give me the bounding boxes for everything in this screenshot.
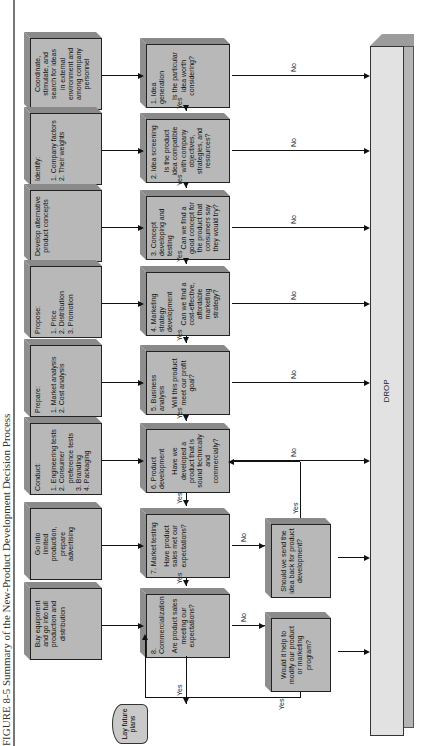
connector-line [232, 382, 368, 383]
step-text: 3. Concept developing and testingCan we … [146, 196, 230, 260]
step-box-2: 2. Idea screeningIs the product idea com… [140, 113, 230, 183]
instruction-line: Prepare: [34, 349, 42, 413]
step-box-8: 8. CommercializationAre product sales me… [140, 588, 230, 658]
yes-label: Yes [278, 699, 285, 710]
step-heading: 5. Business analysis [150, 355, 166, 411]
step-heading: 2. Idea screening [150, 123, 158, 179]
instruction-box-limited: Go intolimitedproduction,prepareadvertis… [24, 502, 102, 580]
step-box-3: 3. Concept developing and testingCan we … [140, 190, 230, 260]
instruction-line: 2. Distribution [58, 270, 66, 334]
instruction-line: production and [50, 592, 58, 656]
arrowhead-icon [142, 634, 148, 640]
instruction-line: and go into full [42, 592, 50, 656]
connector-line [102, 625, 142, 626]
connector-line [186, 656, 187, 704]
step-heading: 7. Market testing [150, 518, 158, 574]
instruction-line: Conduct: [34, 427, 42, 491]
connector-line [232, 303, 368, 304]
instruction-line [42, 427, 50, 491]
connector-line [102, 227, 142, 228]
instruction-text: Coordinate,stimulate, andsearch for idea… [30, 38, 102, 110]
instruction-line: 1. Engineering tests [50, 427, 58, 491]
yes-label: Yes [176, 573, 183, 584]
instruction-line: search for ideas [50, 42, 58, 106]
step-question: Can we find a good concept for the produ… [180, 200, 221, 256]
instruction-box-develop: Develop alternativeproduct concepts [24, 184, 102, 262]
step-question: Can we find a cost-effective, affordable… [180, 276, 221, 332]
instruction-line: 2. Consumer [58, 427, 66, 491]
connector-line [232, 75, 368, 76]
instruction-line: environment and [67, 42, 75, 106]
instruction-line: Go into [34, 512, 42, 576]
arrowhead-icon [138, 148, 144, 154]
arrowhead-icon [183, 580, 189, 586]
step-heading: 4. Marketing strategy development [150, 276, 175, 332]
terminal-text: Lay future plans [112, 704, 148, 744]
step-question: Have product sales met our expectations? [163, 518, 188, 574]
step-question: Is the particular idea worth considering… [171, 48, 196, 104]
step-box-7: 7. Market testingHave product sales met … [140, 508, 230, 578]
arrowhead-icon [228, 459, 234, 465]
instruction-line: prepare [59, 512, 67, 576]
instruction-text: Conduct:1. Engineering tests2. Consumer … [30, 423, 102, 495]
no-label: No [290, 448, 297, 457]
step-question: Are product sales meeting our expectatio… [171, 598, 196, 654]
instruction-line: limited [42, 512, 50, 576]
connector-line [145, 697, 300, 698]
instruction-text: Prepare:1. Market analysis2. Cost analys… [30, 345, 102, 417]
step-question: Is the product idea compatible with comp… [163, 123, 212, 179]
step-text: 6. Product developmentHave we developed … [146, 429, 230, 493]
no-label: No [290, 215, 297, 224]
instruction-line: stimulate, and [42, 42, 50, 106]
step-text: 5. Business analysisWill this product me… [146, 351, 230, 415]
arrowhead-icon [138, 225, 144, 231]
instruction-line: Propose: [34, 270, 42, 334]
decision-send-back-text: Should we send the idea back for product… [271, 524, 331, 598]
no-label: No [240, 533, 247, 542]
step-box-1: 1. Idea generationIs the particular idea… [140, 38, 230, 108]
instruction-line: Develop alternative [34, 194, 42, 258]
connector-line [232, 150, 368, 151]
step-heading: 3. Concept developing and testing [150, 200, 175, 256]
step-question: Will this product meet our profit goal? [171, 355, 196, 411]
instruction-line [42, 349, 50, 413]
arrowhead-icon [183, 182, 189, 188]
instruction-line: production, [50, 512, 58, 576]
arrowhead-icon [183, 337, 189, 343]
arrowhead-icon [138, 623, 144, 629]
arrowhead-icon [183, 258, 189, 264]
connector-line [102, 545, 142, 546]
yes-label: Yes [176, 493, 183, 504]
instruction-line: in external [59, 42, 67, 106]
instruction-text: Develop alternativeproduct concepts [30, 190, 102, 262]
instruction-box-conduct: Conduct:1. Engineering tests2. Consumer … [24, 417, 102, 495]
instruction-text: Identify:1. Company factors2. Their weig… [30, 113, 102, 185]
step-text: 1. Idea generationIs the particular idea… [146, 44, 230, 108]
step-box-6: 6. Product developmentHave we developed … [140, 423, 230, 493]
instruction-text: Go intolimitedproduction,prepareadvertis… [30, 508, 102, 580]
connector-line [102, 460, 142, 461]
instruction-line: Buy equipment [34, 592, 42, 656]
no-label: No [290, 370, 297, 379]
instruction-line: 2. Cost analysis [58, 349, 66, 413]
connector-line [102, 303, 142, 304]
instruction-line: Identify: [34, 117, 42, 181]
instruction-line: advertising [67, 512, 75, 576]
arrowhead-icon [183, 500, 189, 506]
flowchart-canvas: FIGURE 8-5 Summary of the New-Product De… [0, 0, 424, 746]
instruction-line: preference tests [67, 427, 75, 491]
no-label: No [240, 613, 247, 622]
step-text: 4. Marketing strategy developmentCan we … [146, 272, 230, 336]
instruction-box-full: Buy equipmentand go into fullproduction … [24, 582, 102, 660]
arrowhead-icon [183, 698, 189, 704]
step-box-5: 5. Business analysisWill this product me… [140, 345, 230, 415]
instruction-line: 3. Branding [75, 427, 83, 491]
arrowhead-icon [138, 458, 144, 464]
instruction-line: personnel [83, 42, 91, 106]
arrowhead-icon [138, 301, 144, 307]
arrowhead-icon [183, 415, 189, 421]
no-label: No [290, 63, 297, 72]
connector-line [102, 150, 142, 151]
instruction-box-propose: Propose:1. Price2. Distribution3. Promot… [24, 260, 102, 338]
instruction-line: 1. Price [50, 270, 58, 334]
